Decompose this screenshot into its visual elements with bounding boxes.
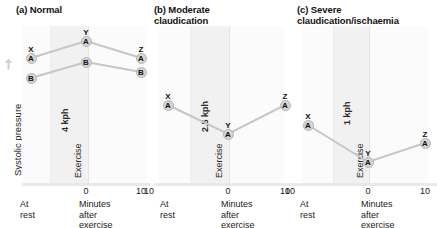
panel-normal-marker-z-a: A (136, 53, 147, 64)
panel-moderate-tick-zero: 0 (218, 186, 238, 196)
panel-normal-marker-y-a: A (81, 36, 92, 47)
marker-letter: A (224, 130, 233, 139)
marker-letter: A (281, 101, 290, 110)
panel-normal-caption-at-rest: At rest (20, 199, 35, 220)
panel-moderate-marker-y-a: A (223, 129, 234, 140)
panel-normal-marker-x-a: A (26, 53, 37, 64)
marker-letter: A (421, 139, 430, 148)
panel-normal-caption-minutes-after: Minutes after exercise (79, 199, 113, 228)
marker-letter: B (27, 74, 36, 83)
panel-severe-caption-minutes-after: Minutes after exercise (361, 199, 395, 228)
panel-normal-marker-x-b: B (26, 73, 37, 84)
panel-moderate: (b) Moderate claudication 2.5 kph Exerci… (150, 0, 293, 228)
marker-letter: A (137, 54, 146, 63)
marker-letter: B (82, 58, 91, 67)
figure-root: Systolic pressure (a) Normal 4 kph Exerc… (0, 0, 437, 228)
marker-letter: A (82, 37, 91, 46)
panel-normal: (a) Normal 4 kph Exercise X A Y A Z A B … (0, 0, 150, 228)
marker-letter: A (27, 54, 36, 63)
marker-letter: A (164, 101, 173, 110)
marker-letter: B (137, 68, 146, 77)
panel-severe-caption-at-rest: At rest (300, 199, 315, 220)
marker-letter: A (304, 121, 313, 130)
panel-moderate-caption-minutes-after: Minutes after exercise (221, 199, 255, 228)
panel-moderate-marker-z-a: A (280, 100, 291, 111)
panel-severe-tick-right: 10 (415, 186, 435, 196)
panel-severe-tick-left: 10 (280, 186, 300, 196)
panel-severe-marker-z-a: A (420, 138, 431, 149)
panel-moderate-marker-x-a: A (163, 100, 174, 111)
panel-severe-marker-y-a: A (363, 157, 374, 168)
panel-normal-series-lines (0, 0, 150, 228)
panel-normal-marker-y-b: B (81, 57, 92, 68)
marker-letter: A (364, 158, 373, 167)
panel-normal-tick-zero: 0 (76, 186, 96, 196)
panel-normal-marker-z-b: B (136, 67, 147, 78)
panel-moderate-tick-left: 10 (139, 186, 159, 196)
panel-severe-marker-x-a: A (303, 120, 314, 131)
panel-severe-tick-zero: 0 (358, 186, 378, 196)
panel-moderate-caption-at-rest: At rest (160, 199, 175, 220)
panel-severe: (c) Severe claudication/ischaemia 1 kph … (293, 0, 437, 228)
